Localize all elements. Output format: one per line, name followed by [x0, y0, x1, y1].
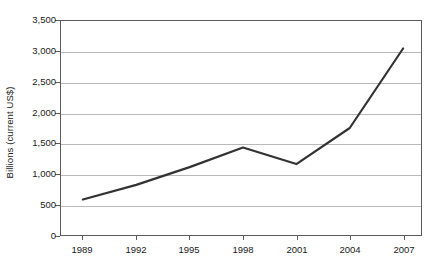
x-tick-label: 2001 [277, 244, 317, 255]
x-tick-label: 1995 [169, 244, 209, 255]
x-tick-mark [243, 236, 244, 240]
x-tick-label: 1989 [62, 244, 102, 255]
x-tick-label: 1992 [116, 244, 156, 255]
x-tick-mark [350, 236, 351, 240]
x-tick-label: 2007 [384, 244, 424, 255]
line-chart: Billions (current US$) 05001,0001,5002,0… [0, 0, 433, 265]
x-axis-ticks: 1989199219951998200120042007 [0, 0, 433, 265]
x-tick-label: 2004 [330, 244, 370, 255]
x-tick-mark [136, 236, 137, 240]
x-tick-mark [404, 236, 405, 240]
x-tick-label: 1998 [223, 244, 263, 255]
x-tick-mark [297, 236, 298, 240]
x-tick-mark [82, 236, 83, 240]
x-tick-mark [189, 236, 190, 240]
